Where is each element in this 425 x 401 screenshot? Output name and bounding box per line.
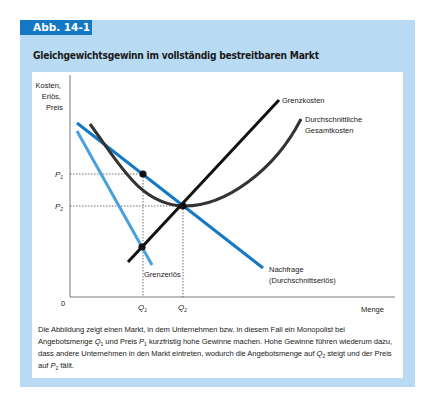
marginal-revenue-label: Grenzerlös (144, 270, 181, 279)
equilibrium-point-marker (179, 202, 186, 209)
q2-label: Q2 (178, 303, 187, 313)
monopoly-point-marker (139, 170, 146, 177)
origin-label: 0 (61, 299, 65, 308)
average-total-cost-curve (90, 119, 301, 206)
average-total-cost-label: Durchschnittliche Gesamtkosten (305, 115, 364, 135)
p2-label: P2 (55, 202, 63, 212)
p1-label: P1 (55, 170, 63, 180)
demand-label: Nachfrage (Durchschnittserlös) (269, 265, 336, 285)
figure-caption: Die Abbildung zeigt einen Markt, in dem … (38, 324, 400, 372)
x-axis-label: Menge (361, 305, 384, 314)
marginal-cost-label: Grenzkosten (282, 96, 325, 105)
y-axis-label: Kosten, Erlös, Preis (35, 81, 63, 112)
mr-mc-intersection-marker (138, 243, 145, 250)
q1-label: Q1 (138, 303, 147, 313)
